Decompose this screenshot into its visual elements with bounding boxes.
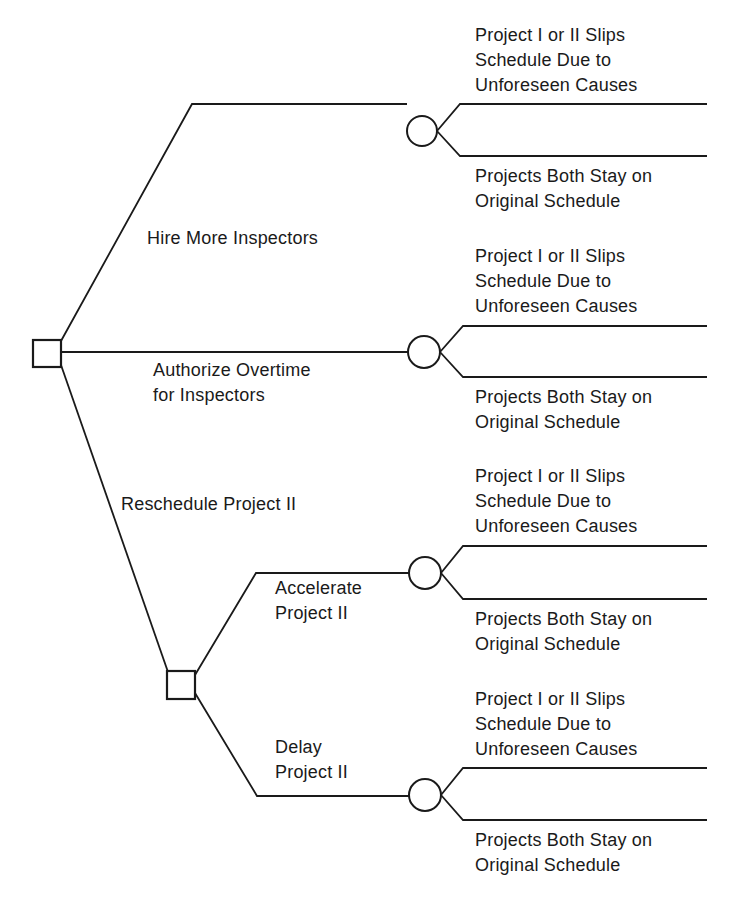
outcome-2-slips-label: Project I or II Slips Schedule Due to Un…: [475, 244, 638, 319]
label-line: Original Schedule: [475, 410, 652, 435]
label-line: Project I or II Slips: [475, 23, 638, 48]
label-line: Project I or II Slips: [475, 687, 638, 712]
label-line: Hire More Inspectors: [147, 226, 318, 251]
decision-tree-diagram: Hire More Inspectors Authorize Overtime …: [0, 0, 740, 902]
chance-4-outcome-slips-branch: [441, 768, 707, 795]
label-line: Original Schedule: [475, 632, 652, 657]
outcome-3-slips-label: Project I or II Slips Schedule Due to Un…: [475, 464, 638, 539]
chance-1-outcome-slips-branch: [437, 104, 707, 131]
label-line: Projects Both Stay on: [475, 385, 652, 410]
outcome-2-stay-label: Projects Both Stay on Original Schedule: [475, 385, 652, 435]
label-line: Schedule Due to: [475, 269, 638, 294]
chance-3-outcome-stay-branch: [441, 573, 707, 599]
label-line: Unforeseen Causes: [475, 73, 638, 98]
outcome-4-slips-label: Project I or II Slips Schedule Due to Un…: [475, 687, 638, 762]
branch-reschedule-project-ii: [61, 365, 168, 672]
reschedule-decision-node: [167, 671, 195, 699]
label-line: Projects Both Stay on: [475, 607, 652, 632]
label-line: Schedule Due to: [475, 48, 638, 73]
chance-3-outcome-slips-branch: [441, 546, 707, 573]
label-line: Project I or II Slips: [475, 464, 638, 489]
root-decision-node: [33, 340, 61, 367]
label-line: Project I or II Slips: [475, 244, 638, 269]
label-line: Project II: [275, 760, 348, 785]
label-line: Projects Both Stay on: [475, 828, 652, 853]
label-line: Unforeseen Causes: [475, 737, 638, 762]
chance-4-outcome-stay-branch: [441, 795, 707, 820]
chance-2-outcome-stay-branch: [440, 352, 707, 377]
label-authorize-overtime: Authorize Overtime for Inspectors: [153, 358, 311, 408]
outcome-4-stay-label: Projects Both Stay on Original Schedule: [475, 828, 652, 878]
chance-node-4: [409, 779, 441, 811]
label-accelerate-project-ii: Accelerate Project II: [275, 576, 362, 626]
label-reschedule-project-ii: Reschedule Project II: [121, 492, 296, 517]
label-line: Unforeseen Causes: [475, 294, 638, 319]
chance-2-outcome-slips-branch: [440, 326, 707, 352]
chance-1-outcome-stay-branch: [437, 131, 707, 156]
label-hire-more-inspectors: Hire More Inspectors: [147, 226, 318, 251]
label-line: Project II: [275, 601, 362, 626]
label-line: for Inspectors: [153, 383, 311, 408]
label-line: Delay: [275, 735, 348, 760]
label-line: Schedule Due to: [475, 489, 638, 514]
label-line: Reschedule Project II: [121, 492, 296, 517]
label-line: Unforeseen Causes: [475, 514, 638, 539]
outcome-3-stay-label: Projects Both Stay on Original Schedule: [475, 607, 652, 657]
label-line: Accelerate: [275, 576, 362, 601]
outcome-1-stay-label: Projects Both Stay on Original Schedule: [475, 164, 652, 214]
label-line: Projects Both Stay on: [475, 164, 652, 189]
chance-node-3: [409, 557, 441, 589]
branch-hire-more-inspectors: [61, 104, 407, 341]
label-line: Authorize Overtime: [153, 358, 311, 383]
chance-node-2: [408, 336, 440, 368]
label-line: Schedule Due to: [475, 712, 638, 737]
outcome-1-slips-label: Project I or II Slips Schedule Due to Un…: [475, 23, 638, 98]
label-line: Original Schedule: [475, 189, 652, 214]
tree-lines: [0, 0, 740, 902]
label-line: Original Schedule: [475, 853, 652, 878]
chance-node-1: [407, 116, 437, 146]
label-delay-project-ii: Delay Project II: [275, 735, 348, 785]
